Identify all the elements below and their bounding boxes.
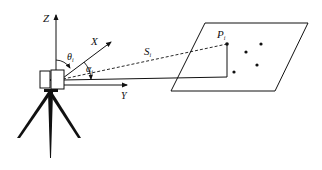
tripod [17, 92, 81, 158]
x-axis-label: X [91, 36, 98, 47]
scanner-head [40, 70, 64, 92]
point-p-i [225, 42, 229, 46]
plane-points [225, 42, 262, 73]
plane-point [244, 50, 247, 53]
plane-point [255, 63, 258, 66]
theta-label: θi [67, 52, 74, 63]
z-axis-label: Z [43, 13, 49, 24]
plane-point [259, 42, 262, 45]
plane-point [232, 70, 235, 73]
range-label: Si [144, 46, 151, 58]
point-label: Pi [217, 29, 225, 41]
diagram-canvas: Z X Y θi αi Si Pi [0, 0, 322, 170]
y-axis-label: Y [121, 91, 127, 101]
target-plane [171, 23, 308, 91]
alpha-label: αi [86, 64, 93, 75]
